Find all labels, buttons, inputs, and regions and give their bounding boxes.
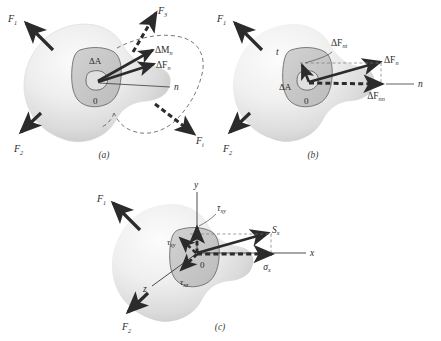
force-1-label-c: F1 — [96, 193, 106, 206]
force-3-label-a: F3 — [157, 5, 167, 18]
normal-axis-label-b: n — [418, 79, 423, 89]
tangent-axis-label-b: t — [276, 47, 279, 57]
panel-b: F1 F2 ΔFn ΔFnn ΔFnt t n ΔA — [216, 13, 423, 161]
panel-b-caption: (b) — [307, 150, 318, 161]
y-axis-label-c: y — [193, 180, 199, 190]
origin-label-a: 0 — [93, 96, 98, 106]
delta-force-nn-label-b: ΔFnn — [367, 91, 385, 102]
shear-xy-label-c: τxy — [217, 203, 226, 214]
normal-stress-label-c: σx — [263, 262, 271, 273]
force-i-label-a: Fi — [195, 135, 204, 148]
stress-analysis-figure: F1 F2 F3 Fi ΔMn ΔFn n ΔA 0 — [0, 0, 441, 341]
force-2-label-a: F2 — [13, 143, 23, 156]
normal-axis-label-a: n — [174, 82, 179, 92]
force-i-arrow-a — [155, 104, 194, 134]
x-axis-label-c: x — [309, 248, 315, 258]
panel-c-caption: (c) — [215, 322, 226, 333]
force-1-label-b: F1 — [216, 13, 226, 26]
origin-label-c: 0 — [200, 260, 205, 270]
delta-force-nn-arrow-b — [309, 83, 382, 84]
force-1-label-a: F1 — [7, 13, 17, 26]
delta-force-label-a: ΔFn — [156, 60, 171, 71]
stress-resultant-label-c: Sx — [272, 225, 280, 236]
force-2-label-c: F2 — [121, 321, 131, 334]
force-2-label-b: F2 — [222, 143, 232, 156]
delta-area-label-a: ΔA — [89, 56, 102, 66]
force-3-arrow-a — [133, 13, 156, 52]
delta-moment-label-a: ΔMn — [155, 45, 173, 56]
origin-label-b: 0 — [304, 96, 309, 106]
delta-force-n-label-b: ΔFn — [384, 55, 399, 66]
panel-a-caption: (a) — [98, 150, 109, 161]
panel-c: y x z F1 F2 Sx σx τxy — [96, 180, 315, 334]
figure-canvas: F1 F2 F3 Fi ΔMn ΔFn n ΔA 0 — [0, 0, 441, 341]
delta-area-label-b: ΔA — [279, 82, 292, 92]
delta-force-nt-label-b: ΔFnt — [331, 38, 348, 49]
panel-a: F1 F2 F3 Fi ΔMn ΔFn n ΔA 0 — [7, 5, 204, 161]
